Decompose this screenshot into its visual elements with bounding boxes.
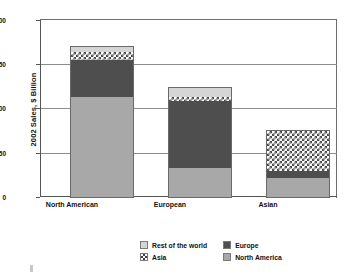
y-tick-label-0: 0 — [0, 194, 6, 201]
legend-item-europe[interactable]: Europe — [223, 241, 282, 249]
legend-item-north-america[interactable]: North America — [223, 253, 282, 261]
bar-north-american[interactable] — [71, 47, 133, 197]
legend-item-rest-of-the-world[interactable]: Rest of the world — [140, 241, 207, 249]
legend-item-asia[interactable]: Asia — [140, 253, 207, 261]
y-tick-label-100: 100 — [0, 105, 6, 112]
y-axis-title: 2002 Sales, $ Billion — [29, 30, 38, 190]
legend-label-europe: Europe — [235, 242, 258, 249]
legend-label-asia: Asia — [152, 254, 166, 261]
y-tick-label-200: 200 — [0, 17, 6, 24]
bar-european[interactable] — [169, 88, 231, 197]
y-tick-mark-0 — [36, 197, 40, 198]
segment-europe[interactable] — [71, 60, 133, 97]
legend-label-rest-of-the-world: Rest of the world — [152, 242, 207, 249]
north-america-swatch-icon — [223, 253, 231, 261]
rest-of-the-world-swatch-icon — [140, 241, 148, 249]
bars-layer — [40, 20, 337, 197]
x-label-asian: Asian — [213, 201, 323, 208]
asia-swatch-icon — [140, 253, 148, 261]
page-corner-mark — [30, 265, 33, 272]
segment-europe[interactable] — [267, 171, 329, 178]
segment-asia[interactable] — [267, 131, 329, 172]
segment-asia[interactable] — [71, 52, 133, 60]
segment-europe[interactable] — [169, 101, 231, 167]
segment-rest-of-the-world[interactable] — [169, 88, 231, 97]
europe-swatch-icon — [223, 241, 231, 249]
y-tick-label-150: 150 — [0, 61, 6, 68]
y-tick-label-50: 50 — [0, 150, 6, 157]
segment-north-america[interactable] — [71, 97, 133, 197]
stacked-bar-chart: 2002 Sales, $ Billion 200 150 100 50 0 — [0, 0, 350, 278]
chart-legend: Rest of the world Europe Asia North Amer… — [140, 241, 282, 261]
segment-north-america[interactable] — [267, 178, 329, 197]
legend-label-north-america: North America — [235, 254, 282, 261]
bar-asian[interactable] — [267, 131, 329, 197]
x-label-european: European — [115, 201, 225, 208]
x-label-north-american: North American — [17, 201, 127, 208]
segment-north-america[interactable] — [169, 168, 231, 197]
